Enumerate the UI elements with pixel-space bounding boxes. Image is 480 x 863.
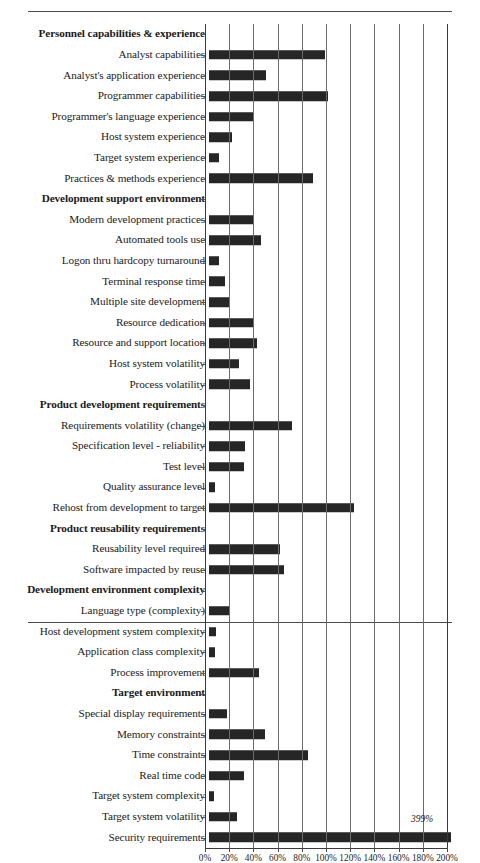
category-label: Test level: [0, 461, 209, 473]
chart-rows: Personnel capabilities & experienceAnaly…: [0, 24, 480, 848]
category-label: Memory constraints: [0, 729, 209, 741]
category-label: Resource and support location: [0, 337, 209, 349]
x-axis-tick-label: 180%: [412, 853, 434, 863]
category-label: Application class complexity: [0, 646, 209, 658]
y-axis-tick: [201, 117, 205, 118]
category-label: Multiple site development: [0, 296, 209, 308]
bar-track: [209, 127, 451, 148]
x-axis-tick-mark: [350, 848, 351, 852]
y-axis-tick: [201, 797, 205, 798]
x-axis-tick-label: 120%: [339, 853, 361, 863]
y-axis-tick: [201, 838, 205, 839]
top-horizontal-rule: [28, 11, 452, 12]
bar: [209, 71, 266, 81]
y-axis-tick: [201, 282, 205, 283]
category-label: Practices & methods experience: [0, 173, 209, 185]
chart-data-row: Requirements volatility (change): [0, 415, 480, 436]
chart-group-row: Product development requirements: [0, 395, 480, 416]
bar-track: [209, 86, 451, 107]
bar-track: [209, 271, 451, 292]
category-label: Process volatility: [0, 379, 209, 391]
bar: [209, 544, 280, 554]
category-label: Target system experience: [0, 152, 209, 164]
y-axis-tick: [201, 426, 205, 427]
y-axis-tick: [201, 632, 205, 633]
bar-track: [209, 148, 451, 169]
chart-data-row: Analyst's application experience: [0, 65, 480, 86]
category-label: Special display requirements: [0, 708, 209, 720]
bar-track: [209, 745, 451, 766]
chart-data-row: Specification level - reliability: [0, 436, 480, 457]
bar: [209, 215, 254, 225]
bar-track: [209, 827, 451, 848]
bar-track: [209, 354, 451, 375]
bar-track: [209, 683, 451, 704]
x-axis-tick-label: 0%: [199, 853, 211, 863]
y-axis-tick: [201, 673, 205, 674]
y-axis-tick: [201, 570, 205, 571]
chart-data-row: Target system complexity: [0, 786, 480, 807]
chart-data-row: Software impacted by reuse: [0, 559, 480, 580]
y-axis-tick: [201, 714, 205, 715]
bar-track: [209, 456, 451, 477]
chart-data-row: Practices & methods experience: [0, 168, 480, 189]
bar: [209, 153, 219, 163]
bar: [209, 462, 244, 472]
y-axis-tick: [201, 240, 205, 241]
chart-data-row: Host system experience: [0, 127, 480, 148]
category-label: Target system complexity: [0, 790, 209, 802]
group-label: Target environment: [0, 687, 209, 699]
y-axis-tick: [201, 405, 205, 406]
chart-group-row: Target environment: [0, 683, 480, 704]
y-axis-tick: [201, 302, 205, 303]
bar: [209, 647, 215, 657]
overflow-value-annotation: 399%: [411, 814, 433, 824]
category-label: Security requirements: [0, 832, 209, 844]
y-axis-tick: [201, 508, 205, 509]
x-axis-tick-label: 140%: [364, 853, 386, 863]
bar-track: [209, 477, 451, 498]
bar: [209, 112, 253, 122]
horizontal-bar-chart: Personnel capabilities & experienceAnaly…: [0, 24, 480, 848]
chart-data-row: Reusability level required: [0, 539, 480, 560]
bar: [209, 565, 284, 575]
bar-track: [209, 704, 451, 725]
chart-data-row: Rehost from development to target: [0, 498, 480, 519]
group-label: Development support environment: [0, 193, 209, 205]
bar-track: [209, 395, 451, 416]
bar-track: [209, 251, 451, 272]
category-label: Terminal response time: [0, 276, 209, 288]
chart-data-row: Time constraints: [0, 745, 480, 766]
bar-track: [209, 45, 451, 66]
group-label: Product reusability requirements: [0, 523, 209, 535]
y-axis-tick: [201, 549, 205, 550]
category-label: Host development system complexity: [0, 626, 209, 638]
chart-data-row: Application class complexity: [0, 642, 480, 663]
bar: [209, 256, 219, 266]
category-label: Resource dedication: [0, 317, 209, 329]
chart-data-row: Quality assurance level: [0, 477, 480, 498]
bar: [209, 318, 254, 328]
x-axis-tick-mark: [399, 848, 400, 852]
bar-track: [209, 292, 451, 313]
bar-track: [209, 601, 451, 622]
chart-data-row: Analyst capabilities: [0, 45, 480, 66]
category-label: Analyst capabilities: [0, 49, 209, 61]
bar-track: [209, 642, 451, 663]
chart-group-row: Product reusability requirements: [0, 518, 480, 539]
bar-track: [209, 436, 451, 457]
category-label: Quality assurance level: [0, 481, 209, 493]
group-label: Personnel capabilities & experience: [0, 28, 209, 40]
chart-group-row: Development support environment: [0, 189, 480, 210]
bar: [209, 833, 451, 843]
x-axis-tick-label: 80%: [293, 853, 310, 863]
bar-track: [209, 539, 451, 560]
bar: [209, 792, 214, 802]
bar: [209, 338, 257, 348]
y-axis-tick: [201, 529, 205, 530]
y-axis-tick: [201, 385, 205, 386]
chart-data-row: Process volatility: [0, 374, 480, 395]
x-axis-tick-mark: [302, 848, 303, 852]
x-axis-tick-mark: [205, 848, 206, 852]
bar: [209, 359, 239, 369]
